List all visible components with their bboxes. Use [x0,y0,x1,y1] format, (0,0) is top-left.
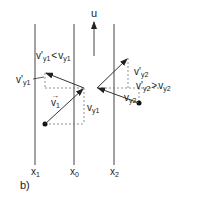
vy1-prime-label: v'y1 [16,74,30,87]
x2-label: x2 [110,166,119,178]
relation-left: v'y1<vy1 [36,50,71,63]
vy2-label: vy2 [124,92,137,105]
u-label: u [91,7,97,19]
vy1-label: vy1 [87,102,100,115]
relation-right: v'y2>vy2 [136,80,171,93]
vy2-prime-label: v'y2 [134,66,148,79]
reflection-diagram: u v'y1<vy1 v'y1 → v1 vy1 v'y2 v'y2>vy2 v… [0,0,199,201]
x0-label: x0 [70,166,79,178]
reflected-arrow-left [46,73,84,88]
x1-label: x1 [31,166,40,178]
panel-label: b) [20,179,30,191]
reflected-arrow-right [97,59,127,88]
